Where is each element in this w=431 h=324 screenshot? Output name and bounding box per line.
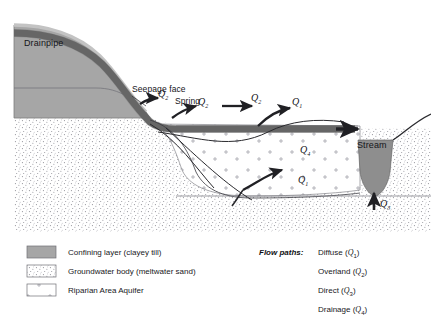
legend-item-confining-label: Confining layer (clayey till): [68, 248, 161, 257]
arrow-q1-upper: [258, 108, 290, 126]
legend-swatches: [27, 246, 56, 296]
arrow-q2-seepage: [140, 98, 158, 104]
flow-label-q2-spring: Q2: [198, 96, 208, 109]
flow-label-q1-lower: Q1: [298, 174, 308, 187]
legend-flowpaths-heading: Flow paths:: [259, 248, 303, 257]
flow-label-q1-upper: Q1: [292, 96, 302, 109]
legend-flowpath-overland: Overland (Q2): [318, 267, 367, 278]
label-spring: Spring: [175, 96, 200, 106]
flow-label-q2-seepage: Q2: [158, 88, 168, 101]
legend-swatch-confining: [27, 246, 56, 258]
legend-flowpath-drainage: Drainage (Q4): [318, 305, 367, 316]
flow-label-q2-overland: Q2: [251, 92, 261, 105]
label-stream: Stream: [357, 140, 387, 150]
label-drainpipe: Drainpipe: [24, 38, 63, 48]
legend-swatch-groundwater: [27, 265, 56, 277]
flow-label-q3-stream: Q3: [380, 198, 390, 211]
legend-item-groundwater-label: Groundwater body (meltwater sand): [68, 267, 196, 276]
arrow-q2-spring: [172, 106, 196, 118]
legend-item-riparian-label: Riparian Area Aquifer: [68, 286, 144, 295]
figure-root: Drainpipe Seepage face Spring Stream Q2 …: [0, 0, 431, 324]
legend-flowpath-diffuse: Diffuse (Q1): [318, 248, 359, 259]
flow-label-q4-drain: Q4: [300, 144, 310, 157]
legend-flowpath-direct: Direct (Q3): [318, 286, 356, 297]
legend-swatch-riparian: [27, 284, 56, 296]
